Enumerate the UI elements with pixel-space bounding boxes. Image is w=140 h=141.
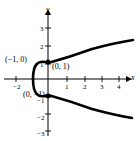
y-tick-label-neg1: −1 bbox=[37, 98, 44, 105]
point-label-vertex: (−1, 0) bbox=[5, 56, 27, 64]
point-marker-0-1 bbox=[46, 60, 51, 65]
y-tick-label-1: 1 bbox=[40, 62, 44, 69]
point-label-zero-neg-one: (0, −1) bbox=[23, 91, 45, 99]
x-tick-label-3: 3 bbox=[100, 84, 104, 91]
parabola-plot-figure: y x 3 2 1 −1 −2 −3 −2 1 2 3 4 (−1, 0) (0… bbox=[0, 0, 140, 141]
x-tick-label-1: 1 bbox=[65, 84, 69, 91]
y-tick-label-neg2: −2 bbox=[37, 115, 44, 122]
point-marker-0-neg1 bbox=[46, 94, 51, 99]
x-tick-label-4: 4 bbox=[117, 84, 121, 91]
x-axis-label: x bbox=[131, 74, 135, 82]
y-axis bbox=[45, 9, 51, 136]
x-tick-label-2: 2 bbox=[83, 84, 87, 91]
plot-canvas bbox=[0, 0, 140, 141]
x-tick-label-neg2: −2 bbox=[13, 84, 20, 91]
y-axis-label: y bbox=[46, 6, 50, 14]
x-axis bbox=[4, 76, 132, 82]
point-label-zero-one: (0, 1) bbox=[52, 63, 69, 71]
y-tick-label-2: 2 bbox=[40, 44, 44, 51]
y-tick-label-neg3: −3 bbox=[37, 131, 44, 138]
y-tick-label-3: 3 bbox=[40, 26, 44, 33]
